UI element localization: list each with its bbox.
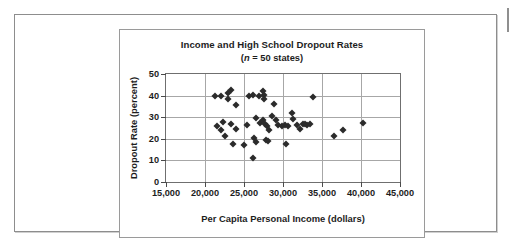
chart-subtitle: (n = 50 states) xyxy=(120,53,424,63)
y-tick-label: 40 xyxy=(149,91,159,101)
gridline-vertical xyxy=(244,74,245,182)
y-tick-mark xyxy=(161,117,166,118)
data-point xyxy=(233,126,240,133)
x-tick-mark xyxy=(166,182,167,187)
x-tick-label: 40,000 xyxy=(347,188,375,198)
data-point xyxy=(233,102,240,109)
x-axis-title: Per Capita Personal Income (dollars) xyxy=(165,213,401,224)
x-tick-mark xyxy=(322,182,323,187)
x-tick-label: 15,000 xyxy=(152,188,180,198)
y-tick-label: 50 xyxy=(149,69,159,79)
x-tick-label: 35,000 xyxy=(308,188,336,198)
x-tick-mark xyxy=(283,182,284,187)
y-tick-label: 30 xyxy=(149,112,159,122)
data-point xyxy=(310,93,317,100)
x-tick-mark xyxy=(244,182,245,187)
page-edge-rule xyxy=(507,8,509,32)
y-axis-title: Dropout Rate (percent) xyxy=(128,73,144,183)
plot-area: 0102030405015,00020,00025,00030,00035,00… xyxy=(165,73,401,183)
x-tick-mark xyxy=(205,182,206,187)
gridline-vertical xyxy=(322,74,323,182)
x-tick-label: 20,000 xyxy=(191,188,219,198)
y-tick-mark xyxy=(161,74,166,75)
y-tick-label: 20 xyxy=(149,134,159,144)
data-point xyxy=(227,120,234,127)
data-point xyxy=(265,127,272,134)
x-tick-mark xyxy=(400,182,401,187)
data-point xyxy=(230,141,237,148)
y-tick-mark xyxy=(161,96,166,97)
y-tick-label: 0 xyxy=(154,177,159,187)
data-point xyxy=(340,127,347,134)
x-tick-label: 30,000 xyxy=(269,188,297,198)
x-tick-label: 45,000 xyxy=(386,188,414,198)
data-point xyxy=(219,118,226,125)
gridline-vertical xyxy=(361,74,362,182)
subtitle-count-text: = 50 states) xyxy=(250,53,304,63)
data-point xyxy=(270,101,277,108)
figure-outer-box: Income and High School Dropout Rates (n … xyxy=(14,14,497,232)
y-tick-mark xyxy=(161,139,166,140)
gridline-vertical xyxy=(205,74,206,182)
chart-panel: Income and High School Dropout Rates (n … xyxy=(119,29,425,238)
data-point xyxy=(240,142,247,149)
data-point xyxy=(285,122,292,129)
x-tick-mark xyxy=(361,182,362,187)
y-tick-mark xyxy=(161,160,166,161)
data-point xyxy=(360,119,367,126)
y-tick-label: 10 xyxy=(149,155,159,165)
x-tick-label: 25,000 xyxy=(230,188,258,198)
chart-title: Income and High School Dropout Rates xyxy=(120,39,424,50)
